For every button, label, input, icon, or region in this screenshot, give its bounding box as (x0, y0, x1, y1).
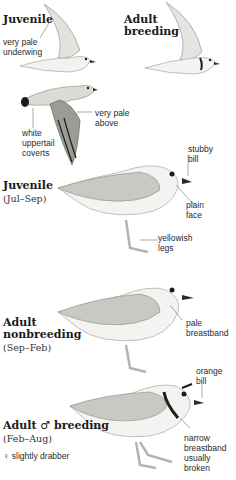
orange-bill-note-2: bill (196, 376, 206, 386)
female-drabber-note: ♀ slightly drabber (3, 451, 69, 461)
upperwing-note-1: very pale (95, 108, 130, 118)
uppertail-note-2: uppertail (22, 138, 55, 148)
plover-illustrations (0, 0, 236, 480)
uppertail-note-3: coverts (22, 148, 49, 158)
pale-breastband-note-2: breastband (186, 328, 229, 338)
narrow-breastband-note-2: breastband (184, 443, 227, 453)
adult-male-breeding-title: Adult ♂ breeding (3, 420, 109, 432)
juvenile-flight-title: Juvenile (3, 14, 53, 26)
juvenile-standing-title: Juvenile (3, 180, 53, 192)
pale-breastband-note-1: pale (186, 318, 202, 328)
juvenile-flight-note-1: very pale (3, 37, 38, 47)
upperwing-note-2: above (95, 118, 118, 128)
adult-nonbreeding-season: (Sep–Feb) (3, 342, 51, 353)
adult-breeding-flight-title-2: breeding (124, 26, 179, 38)
stubby-bill-note-1: stubby (188, 144, 213, 154)
stubby-bill-note-2: bill (188, 154, 198, 164)
uppertail-note-1: white (22, 128, 42, 138)
juvenile-standing-season: (Jul–Sep) (3, 193, 46, 204)
adult-nonbreeding-title-2: nonbreeding (3, 329, 81, 341)
narrow-breastband-note-4: broken (184, 463, 210, 473)
yellowish-legs-note-2: legs (158, 243, 174, 253)
plain-face-note-2: face (186, 210, 202, 220)
orange-bill-note-1: orange (196, 366, 222, 376)
narrow-breastband-note-1: narrow (184, 433, 210, 443)
plain-face-note-1: plain (186, 200, 204, 210)
juvenile-flight-note-2: underwing (3, 47, 42, 57)
adult-male-breeding-season: (Feb–Aug) (3, 433, 52, 444)
yellowish-legs-note-1: yellowish (158, 233, 193, 243)
narrow-breastband-note-3: usually (184, 453, 210, 463)
